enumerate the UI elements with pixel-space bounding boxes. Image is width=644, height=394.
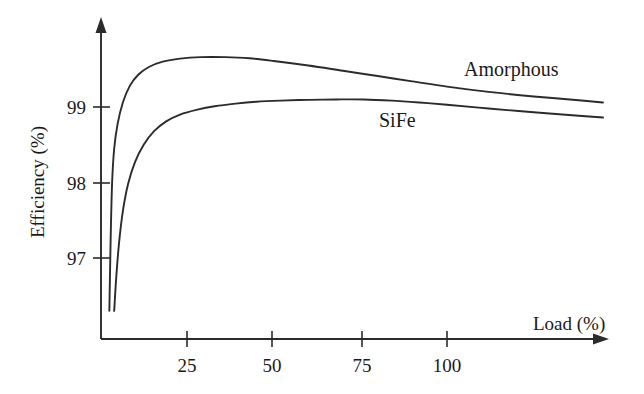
y-tick-label-98: 98: [67, 173, 86, 194]
series-label-sife: SiFe: [379, 109, 416, 131]
x-tick-label-25: 25: [178, 355, 197, 376]
x-tick-label-50: 50: [263, 355, 282, 376]
series-label-amorphous: Amorphous: [464, 58, 559, 81]
x-tick-label-100: 100: [433, 355, 462, 376]
y-tick-group: 99 98 97: [67, 97, 110, 269]
series-line-amorphous: [109, 57, 603, 311]
series-line-sife: [114, 99, 603, 310]
efficiency-vs-load-chart: 99 98 97 25 50 75 100 Efficiency (%) Loa…: [0, 0, 644, 394]
series-group: [109, 57, 603, 311]
y-tick-label-99: 99: [67, 97, 86, 118]
y-tick-label-97: 97: [67, 248, 86, 269]
y-axis-title: Efficiency (%): [27, 126, 49, 238]
x-tick-label-75: 75: [353, 355, 372, 376]
x-axis-title: Load (%): [533, 313, 605, 335]
x-axis-arrow-icon: [593, 334, 609, 345]
x-tick-group: 25 50 75 100: [178, 331, 462, 376]
y-axis-arrow-icon: [96, 17, 107, 33]
